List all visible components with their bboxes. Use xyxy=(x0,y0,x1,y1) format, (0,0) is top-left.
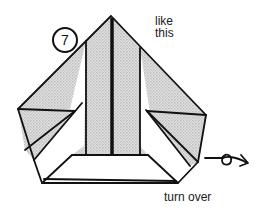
turn-over-arrow-icon xyxy=(205,155,248,166)
turn-over-caption: turn over xyxy=(164,191,211,203)
caption-line-2: this xyxy=(155,27,195,39)
step-number-badge: 7 xyxy=(52,27,78,53)
like-this-caption: like this xyxy=(155,15,195,39)
origami-step-diagram xyxy=(0,0,263,212)
